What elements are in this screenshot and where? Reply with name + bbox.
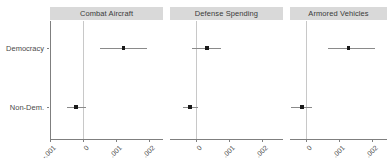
x-axis-tick-mark [372, 140, 373, 142]
zero-reference-line-panel3 [306, 21, 307, 139]
estimate-point [347, 46, 350, 49]
panel2-x-axis [170, 139, 283, 140]
estimate-point [300, 105, 303, 108]
x-axis-tick-mark [83, 140, 84, 142]
x-axis-tick-mark [339, 140, 340, 142]
estimate-whisker [291, 107, 312, 108]
estimate-point [205, 46, 208, 49]
estimate-whisker [183, 107, 198, 108]
y-axis-label-democracy: Democracy [0, 44, 44, 53]
x-axis-tick-mark [50, 140, 51, 142]
facet-strip-combat-aircraft: Combat Aircraft [50, 7, 163, 20]
panel-left-axis [50, 21, 51, 140]
x-axis-tick-mark [229, 140, 230, 142]
x-axis-tick-mark [196, 140, 197, 142]
estimate-point [122, 46, 125, 49]
panel-armored-vehicles [290, 21, 387, 140]
estimate-whisker [328, 48, 375, 49]
estimate-point [74, 105, 77, 108]
x-axis-tick-mark [149, 140, 150, 142]
zero-reference-line-panel1 [83, 21, 84, 139]
y-axis-label-non-dem: Non-Dem. [0, 103, 44, 112]
estimate-whisker [100, 48, 147, 49]
panel-combat-aircraft [50, 21, 163, 140]
chart-root: Combat Aircraft Defense Spending Armored… [0, 0, 387, 166]
x-axis-tick-mark [116, 140, 117, 142]
zero-reference-line-panel2 [196, 21, 197, 139]
y-tick-democracy [47, 48, 49, 49]
panel-defense-spending [170, 21, 283, 140]
x-axis-tick-label: -.001 [22, 144, 57, 166]
clipped-caption [60, 162, 387, 166]
estimate-whisker [67, 107, 86, 108]
y-tick-non-dem [47, 107, 49, 108]
facet-strip-armored-vehicles: Armored Vehicles [290, 7, 387, 20]
estimate-point [188, 105, 191, 108]
x-axis-tick-mark [262, 140, 263, 142]
estimate-whisker [192, 48, 221, 49]
x-axis-tick-mark [306, 140, 307, 142]
panel1-x-axis [50, 139, 163, 140]
facet-strip-defense-spending: Defense Spending [170, 7, 283, 20]
